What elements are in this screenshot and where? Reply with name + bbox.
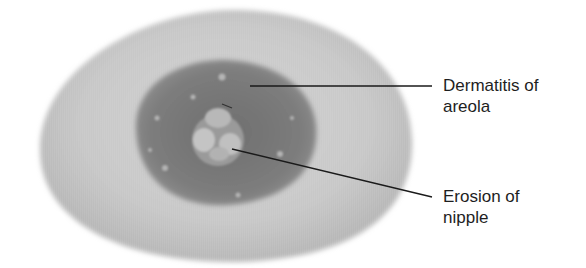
label-dermatitis-of-areola: Dermatitis of areola (443, 75, 538, 117)
label-nipple-line2: nipple (443, 207, 520, 228)
label-areola-line2: areola (443, 96, 538, 117)
label-nipple-line1: Erosion of (443, 186, 520, 207)
label-erosion-of-nipple: Erosion of nipple (443, 186, 520, 228)
label-areola-line1: Dermatitis of (443, 75, 538, 96)
